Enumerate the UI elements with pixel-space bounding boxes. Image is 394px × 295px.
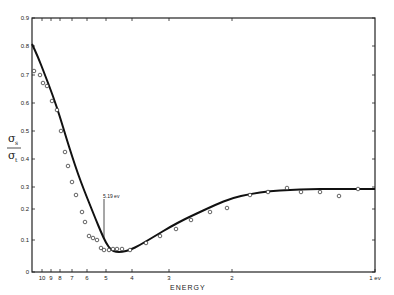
data-point [74,193,78,197]
y-tick-label: 0.9 [21,15,30,21]
ylabel-numerator-sub: s [15,139,18,146]
data-point [318,190,322,194]
data-point [120,247,124,251]
data-point [115,247,119,251]
data-point [66,164,70,168]
data-point [225,206,229,210]
data-point [111,247,115,251]
data-point [299,190,303,194]
data-point [128,248,132,252]
ylabel-denominator-sub: t [15,156,18,163]
data-point [32,69,36,73]
y-axis-title: σ s σ t [7,132,21,163]
y-tick-label: 0.1 [21,237,30,243]
plot-frame [32,18,375,272]
data-point [189,218,193,222]
y-tick-label: 0.7 [21,72,30,78]
data-point [91,236,95,240]
x-tick-label: 1 ev [369,275,380,281]
data-point [50,99,54,103]
data-point [248,193,252,197]
x-tick-label: 6 [85,275,89,281]
x-tick-label: 2 [230,275,234,281]
x-tick-label: 4 [130,275,134,281]
data-point [266,190,270,194]
plot-border [32,18,375,272]
data-point [107,248,111,252]
data-points [32,69,360,252]
y-tick-label: 0.6 [21,100,30,106]
data-point [144,241,148,245]
x-axis-ticks: 10987654321 ev [39,269,381,281]
data-point [102,248,106,252]
y-tick-label: 0.8 [21,43,30,49]
data-point [208,210,212,214]
data-point [83,220,87,224]
x-axis-title: ENERGY [170,284,206,291]
annotation-label: 5.19 ev [103,193,120,199]
x-tick-label: 8 [58,275,62,281]
data-point [337,194,341,198]
data-point [87,234,91,238]
y-tick-label: 0.4 [21,156,30,162]
data-point [95,238,99,242]
data-point [45,84,49,88]
annotation-5-19-ev: 5.19 ev [103,193,120,238]
data-point [158,234,162,238]
data-point [41,81,45,85]
x-tick-label: 3 [167,275,171,281]
x-tick-label: 7 [70,275,74,281]
data-point [63,150,67,154]
data-point [55,108,59,112]
chart: 00.10.20.30.40.50.60.70.80.9 10987654321… [0,0,394,295]
y-tick-label: 0 [26,269,30,275]
data-point [38,73,42,77]
data-point [70,180,74,184]
y-tick-label: 0.3 [21,184,30,190]
x-tick-label: 10 [39,275,46,281]
data-point [285,186,289,190]
data-point [356,187,360,191]
y-tick-label: 0.5 [21,128,30,134]
y-axis-ticks: 00.10.20.30.40.50.60.70.80.9 [21,15,35,275]
data-point [59,129,63,133]
data-point [80,210,84,214]
y-tick-label: 0.2 [21,206,30,212]
x-tick-label: 5 [104,275,108,281]
data-point [174,227,178,231]
x-tick-label: 9 [49,275,53,281]
